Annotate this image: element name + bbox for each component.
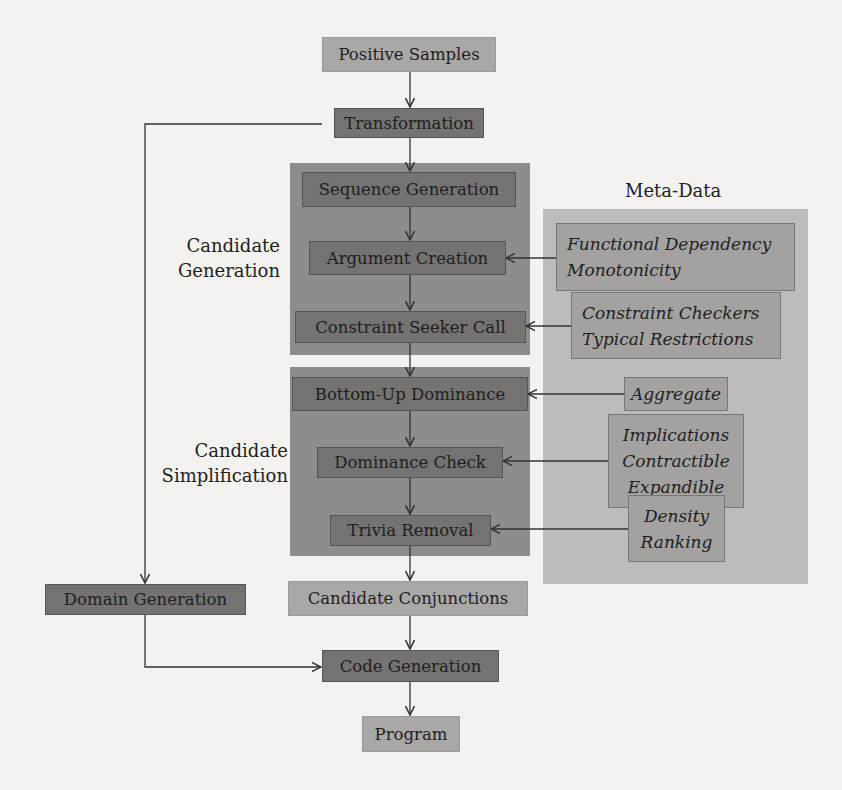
monotonicity-text: Monotonicity: [567, 257, 784, 283]
constraint-seeker-call-node: Constraint Seeker Call: [295, 311, 526, 343]
argument-creation-node: Argument Creation: [309, 241, 506, 275]
meta-data-title: Meta-Data: [625, 180, 721, 201]
candidate-conjunctions-node: Candidate Conjunctions: [288, 581, 528, 616]
code-generation-node: Code Generation: [322, 650, 499, 682]
trivia-removal-node: Trivia Removal: [330, 515, 491, 546]
candidate-generation-label-line1: Candidate: [160, 233, 280, 258]
dominance-check-node: Dominance Check: [317, 447, 503, 478]
ranking-text: Ranking: [641, 529, 713, 555]
aggregate-text: Aggregate: [631, 381, 721, 407]
typical-restrictions-text: Typical Restrictions: [582, 326, 770, 352]
functional-dependency-text: Functional Dependency: [567, 231, 784, 257]
aggregate-box: Aggregate: [624, 377, 728, 411]
candidate-simplification-label-line2: Simplification: [150, 463, 288, 488]
candidate-simplification-label: Candidate Simplification: [150, 438, 288, 488]
implications-box: Implications Contractible Expandible: [608, 414, 744, 508]
candidate-simplification-label-line1: Candidate: [150, 438, 288, 463]
positive-samples-node: Positive Samples: [322, 37, 496, 72]
sequence-generation-node: Sequence Generation: [302, 172, 516, 207]
constraint-checkers-text: Constraint Checkers: [582, 300, 770, 326]
density-ranking-box: Density Ranking: [628, 495, 725, 562]
domain-generation-node: Domain Generation: [45, 584, 246, 615]
contractible-text: Contractible: [622, 448, 729, 474]
transformation-node: Transformation: [334, 108, 484, 138]
program-node: Program: [362, 716, 460, 752]
density-text: Density: [644, 503, 709, 529]
functional-dependency-box: Functional Dependency Monotonicity: [556, 223, 795, 291]
candidate-generation-label: Candidate Generation: [160, 233, 280, 283]
constraint-checkers-box: Constraint Checkers Typical Restrictions: [571, 292, 781, 359]
candidate-generation-label-line2: Generation: [160, 258, 280, 283]
bottom-up-dominance-node: Bottom-Up Dominance: [292, 377, 528, 411]
implications-text: Implications: [623, 422, 729, 448]
